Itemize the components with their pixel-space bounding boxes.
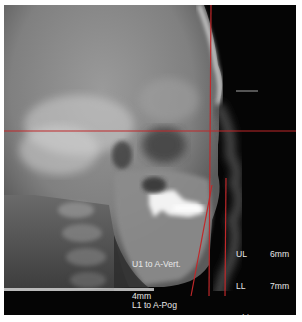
l1-to-a-pog-annotation: L1 to A-Pog 6mm Mean 3.4±2 bbox=[132, 279, 177, 315]
soft-tissue-measurements: UL6mm LL7mm Chin-4mm Mean UL4mm LL2mm Ch… bbox=[236, 228, 289, 315]
u1-title: U1 to A-Vert. bbox=[132, 259, 181, 270]
measured-chin-row: Chin-4mm bbox=[236, 313, 289, 315]
measured-ll-row: LL7mm bbox=[236, 281, 289, 292]
l1-title: L1 to A-Pog bbox=[132, 300, 177, 311]
radiograph-frame: U1 to A-Vert. 4mm Mean 2.2±2 L1 to A-Pog… bbox=[4, 5, 296, 315]
measured-ul-row: UL6mm bbox=[236, 249, 289, 260]
